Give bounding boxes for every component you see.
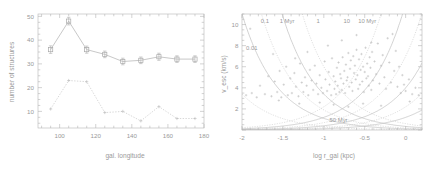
left-plot-frame xyxy=(38,14,204,128)
curve-falling-solid-a xyxy=(242,14,422,129)
left-yaxis-title: number of structures xyxy=(8,41,15,102)
left-ytick-label: 10 xyxy=(27,108,34,115)
right-yaxis-title: v_esc (km/s) xyxy=(220,55,228,92)
left-ytick-label: 40 xyxy=(27,36,34,43)
left-ytick-label: 20 xyxy=(27,84,34,91)
left-ytick-label: 30 xyxy=(27,60,34,67)
left-xtick-label: 160 xyxy=(163,132,174,139)
right-xtick-label: -1.5 xyxy=(278,134,289,141)
left-chart-svg: 1001201401601801020304050 gal. longitude… xyxy=(0,0,216,171)
left-xtick-label: 120 xyxy=(91,132,102,139)
right-xtick-label: 0 xyxy=(404,134,408,141)
figure-container: 1001201401601801020304050 gal. longitude… xyxy=(0,0,433,171)
left-series-line-0 xyxy=(51,21,195,61)
right-annotation-5: 0.01 xyxy=(246,45,257,51)
right-ytick-label: 4 xyxy=(235,84,239,91)
left-series-line-1 xyxy=(51,81,195,121)
right-annotation-3: 10 xyxy=(343,18,350,24)
right-ytick-label: 8 xyxy=(235,42,239,49)
right-annotation-6: 50 Myr xyxy=(330,117,348,123)
right-ytick-label: 10 xyxy=(232,21,239,28)
panel-left-line-chart: 1001201401601801020304050 gal. longitude… xyxy=(0,0,216,171)
left-xtick-label: 100 xyxy=(54,132,65,139)
panel-right-scatter-chart: -2-1.5-1-0.502468100.11 Myr11010 Myr0.01… xyxy=(216,0,433,171)
left-ytick-label: 50 xyxy=(27,13,34,20)
left-xtick-label: 180 xyxy=(199,132,210,139)
right-annotation-0: 0.1 xyxy=(261,18,269,24)
right-xtick-label: -0.5 xyxy=(359,134,370,141)
left-xtick-label: 140 xyxy=(127,132,138,139)
curve-falling-dot-b xyxy=(253,0,422,129)
right-chart-svg: -2-1.5-1-0.502468100.11 Myr11010 Myr0.01… xyxy=(216,0,433,171)
left-xaxis-title: gal. longitude xyxy=(105,152,145,160)
right-annotation-2: 1 xyxy=(316,18,319,24)
right-xtick-label: -1 xyxy=(321,134,327,141)
right-annotation-1: 1 Myr xyxy=(280,18,295,24)
right-annotation-4: 10 Myr xyxy=(358,18,376,24)
right-xtick-label: -2 xyxy=(239,134,245,141)
right-xaxis-title: log r_gal (kpc) xyxy=(313,152,355,160)
right-ytick-label: 6 xyxy=(235,63,239,70)
right-ytick-label: 2 xyxy=(235,105,239,112)
